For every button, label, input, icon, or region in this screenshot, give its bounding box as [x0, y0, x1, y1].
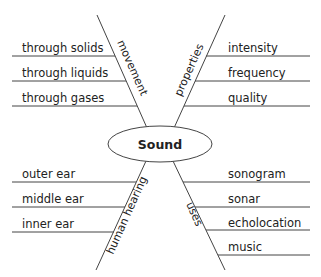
- properties-item: frequency: [228, 66, 286, 80]
- branch-uses: uses sonogram sonar echolocation music: [173, 161, 310, 270]
- branch-human-hearing-label: human hearing: [104, 174, 150, 256]
- human-hearing-item: outer ear: [22, 167, 75, 181]
- branch-human-hearing: human hearing outer ear middle ear inner…: [12, 161, 150, 270]
- center-node: Sound: [108, 126, 212, 162]
- branch-properties: properties intensity frequency quality: [172, 15, 310, 128]
- movement-item: through gases: [22, 91, 104, 105]
- branch-movement-label: movement: [114, 38, 150, 98]
- properties-item: intensity: [228, 41, 278, 55]
- uses-item: sonar: [228, 192, 260, 206]
- uses-item: echolocation: [228, 216, 301, 230]
- movement-item: through solids: [22, 41, 104, 55]
- branch-uses-label: uses: [183, 200, 205, 229]
- spider-map-diagram: movement through solids through liquids …: [0, 0, 321, 277]
- branch-movement: movement through solids through liquids …: [12, 15, 151, 128]
- uses-item: music: [228, 240, 262, 254]
- branch-properties-label: properties: [172, 41, 207, 98]
- center-label: Sound: [138, 137, 182, 152]
- human-hearing-item: inner ear: [22, 217, 74, 231]
- movement-item: through liquids: [22, 66, 108, 80]
- human-hearing-item: middle ear: [22, 192, 84, 206]
- uses-item: sonogram: [228, 167, 286, 181]
- properties-item: quality: [228, 91, 268, 105]
